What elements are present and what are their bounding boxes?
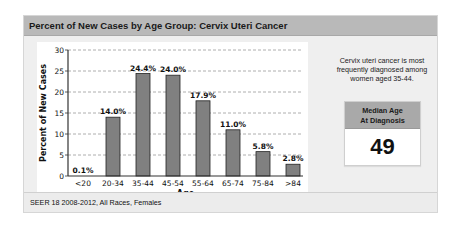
x-tick-label: <20: [75, 179, 91, 188]
x-tick-label: 75-84: [252, 179, 274, 188]
y-tick-label: 0: [59, 172, 64, 181]
x-tick-label: 65-74: [222, 179, 244, 188]
x-tick-label: 20-34: [102, 179, 124, 188]
panel-title: Percent of New Cases by Age Group: Cervi…: [24, 16, 437, 36]
median-age-label: Median Age At Diagnosis: [345, 102, 420, 129]
median-age-value: 49: [345, 129, 420, 165]
bar-chart-svg: 0510152025300.1%<2014.0%20-3424.4%35-442…: [37, 42, 308, 204]
bar-value-label: 2.8%: [283, 154, 304, 163]
bar-chart: 0510152025300.1%<2014.0%20-3424.4%35-442…: [37, 42, 308, 204]
bar-20-34: [106, 117, 120, 176]
median-label-line2: At Diagnosis: [345, 116, 420, 126]
bar-value-label: 14.0%: [100, 107, 127, 116]
bar->84: [286, 164, 300, 176]
x-tick-label: >84: [285, 179, 301, 188]
y-tick-label: 5: [59, 151, 64, 160]
bar-value-label: 24.4%: [130, 64, 157, 73]
y-tick-label: 10: [54, 130, 64, 139]
x-tick-label: 55-64: [192, 179, 214, 188]
bar-75-84: [256, 152, 270, 176]
bar-value-label: 5.8%: [253, 142, 274, 151]
y-tick-label: 15: [54, 109, 64, 118]
bar-55-64: [196, 101, 210, 176]
bar-value-label: 0.1%: [73, 166, 94, 175]
data-source-footer: SEER 18 2008-2012, All Races, Females: [24, 192, 437, 212]
y-axis-title: Percent of New Cases: [39, 64, 48, 162]
bar-value-label: 11.0%: [220, 120, 247, 129]
y-tick-label: 30: [54, 46, 64, 55]
bar-value-label: 24.0%: [160, 65, 187, 74]
bar-35-44: [136, 74, 150, 176]
x-tick-label: 35-44: [132, 179, 154, 188]
bar-45-54: [166, 75, 180, 176]
y-tick-label: 25: [54, 67, 64, 76]
bar-value-label: 17.9%: [190, 91, 217, 100]
summary-sidebar: Cervix uteri cancer is most frequently d…: [324, 42, 439, 204]
median-label-line1: Median Age: [345, 106, 420, 116]
chart-panel: Percent of New Cases by Age Group: Cervi…: [23, 15, 438, 213]
summary-description: Cervix uteri cancer is most frequently d…: [332, 56, 432, 83]
x-tick-label: 45-54: [162, 179, 184, 188]
median-age-card: Median Age At Diagnosis 49: [344, 101, 421, 166]
y-tick-label: 20: [54, 88, 64, 97]
bar-65-74: [226, 130, 240, 176]
